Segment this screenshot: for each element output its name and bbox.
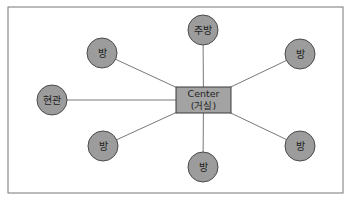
node-room-bottom-left: 방 — [88, 131, 118, 161]
node-label: 방 — [296, 141, 305, 152]
node-label: 주방 — [194, 25, 212, 36]
node-room-top-right: 방 — [285, 39, 315, 69]
node-room-bottom: 방 — [188, 152, 218, 182]
node-room-top-left: 방 — [87, 38, 117, 68]
center-label-line2: (거실) — [191, 100, 216, 111]
node-label: 현관 — [43, 95, 61, 106]
node-label: 방 — [199, 162, 208, 173]
center-node-living-room: Center (거실) — [176, 87, 231, 113]
floor-plan-star-diagram: 주방방방현관방방방 Center (거실) — [0, 0, 348, 200]
node-label: 방 — [98, 48, 107, 59]
node-entrance: 현관 — [37, 85, 67, 115]
node-label: 방 — [296, 49, 305, 60]
node-label: 방 — [99, 141, 108, 152]
node-room-bottom-right: 방 — [285, 131, 315, 161]
node-kitchen: 주방 — [188, 15, 218, 45]
center-label-line1: Center — [188, 88, 220, 99]
